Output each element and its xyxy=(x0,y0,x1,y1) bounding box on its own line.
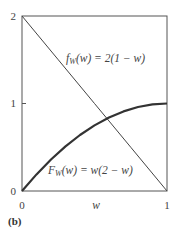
cdf-annotation: FW(w) = w(2 − w) xyxy=(47,164,133,178)
y-tick-label-0: 0 xyxy=(11,185,17,197)
pdf-label-rest: (w) = 2(1 − w) xyxy=(76,52,145,65)
cdf-label-rest: (w) = w(2 − w) xyxy=(62,164,133,177)
panel-label: (b) xyxy=(8,215,22,228)
x-tick-label-0: 0 xyxy=(19,199,25,211)
pdf-annotation: fW(w) = 2(1 − w) xyxy=(66,52,145,66)
chart: 2 1 0 0 1 w fW(w) = 2(1 − w) FW(w) = w(2… xyxy=(0,0,175,234)
y-tick-label-1: 1 xyxy=(11,97,17,109)
cdf-curve xyxy=(22,104,167,192)
y-tick-label-2: 2 xyxy=(11,10,17,22)
x-axis-label: w xyxy=(92,199,100,211)
x-tick-label-1: 1 xyxy=(164,199,170,211)
